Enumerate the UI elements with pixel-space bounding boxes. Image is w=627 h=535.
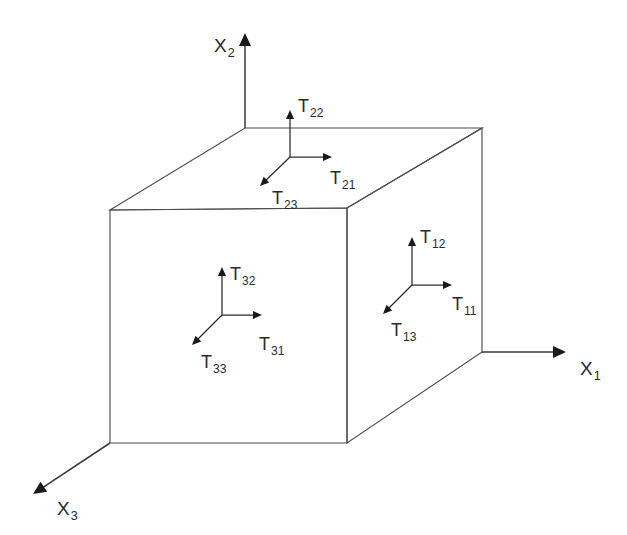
stress-cube-canvas: X1X2X3 T32T31T33T22T21T23T12T11T13 bbox=[0, 0, 627, 535]
axis-x3-label: X3 bbox=[57, 498, 78, 523]
stress-cube-diagram: X1X2X3 T32T31T33T22T21T23T12T11T13 bbox=[0, 0, 627, 535]
axis-x1-arrowhead bbox=[553, 346, 566, 358]
axis-x1: X1 bbox=[482, 346, 601, 383]
axis-x1-label: X1 bbox=[580, 358, 601, 383]
axis-x2: X2 bbox=[214, 33, 251, 128]
axis-x3: X3 bbox=[33, 443, 110, 523]
axis-x3-arrowhead bbox=[33, 482, 47, 494]
axis-x2-arrowhead bbox=[239, 33, 251, 46]
axis-x3-line bbox=[41, 443, 110, 489]
cube-front-face bbox=[110, 208, 347, 443]
stress-arrow-t22-arrowhead bbox=[286, 110, 294, 119]
axis-x2-label: X2 bbox=[214, 35, 235, 60]
stress-label-t22: T22 bbox=[298, 96, 324, 120]
